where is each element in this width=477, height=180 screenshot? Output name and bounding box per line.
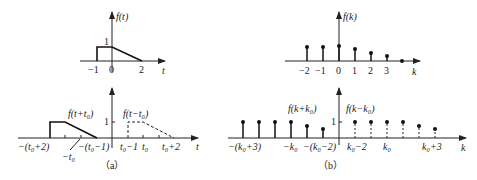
tick-label: −t₀ — [62, 151, 76, 162]
f-t-waveform — [97, 47, 142, 61]
right-stems — [353, 120, 437, 138]
tick-label: −k₀ — [283, 141, 298, 152]
plot-f-k-shifted: f(k+k₀) f(k−k₀) 1 −(k₀+3) −k₀ −(k₀−2) k₀… — [228, 88, 466, 171]
left-stems — [241, 120, 325, 138]
tick-label: −(t₀+2) — [18, 141, 50, 153]
signal-shift-diagram: f(t) 1 −1 0 2 t f(t+t₀) f(t−t₀) 1 −(t₀+2… — [0, 0, 477, 180]
plot-f-t: f(t) 1 −1 0 2 t — [80, 11, 165, 76]
level-label: 1 — [104, 116, 109, 127]
tick-label: 2 — [368, 65, 373, 76]
tick-label: k₀−2 — [347, 141, 367, 152]
f-t-plus-t0-waveform — [50, 122, 97, 138]
left-curve-label: f(t+t₀) — [68, 108, 94, 120]
tick-label: 2 — [139, 64, 144, 75]
level-label: 1 — [331, 116, 336, 127]
tick-label: −2 — [299, 65, 310, 76]
stems — [305, 44, 404, 63]
tick-label: t₀−1 — [120, 141, 138, 152]
left-seq-label: f(k+k₀) — [288, 103, 317, 115]
tick-label: −1 — [315, 65, 326, 76]
right-seq-label: f(k−k₀) — [346, 103, 375, 115]
tick-label: 1 — [352, 65, 357, 76]
tick-label: 3 — [384, 65, 389, 76]
tick-label: −1 — [88, 64, 99, 75]
xlabel: t — [196, 141, 199, 152]
f-t-minus-t0-waveform — [128, 122, 174, 138]
xlabel: k — [412, 66, 417, 77]
tick-label: 0 — [336, 65, 341, 76]
caption-b: （b） — [318, 160, 343, 171]
plot-f-k: f(k) −2 −1 0 1 2 3 k — [285, 11, 420, 77]
tick-label: k₀+3 — [422, 141, 442, 152]
right-curve-label: f(t−t₀) — [123, 108, 149, 120]
tick-label: −(t₀−1) — [78, 141, 110, 153]
tick-label: t₀+2 — [162, 141, 180, 152]
level-label: 1 — [104, 36, 109, 47]
plot-f-t-shifted: f(t+t₀) f(t−t₀) 1 −(t₀+2) −t₀ −(t₀−1) t₀… — [18, 88, 199, 171]
tick-label: −(k₀+3) — [228, 141, 262, 153]
tick-label: t₀ — [142, 141, 149, 152]
tick-label: k₀ — [383, 141, 391, 152]
tick-label: −(k₀−2) — [303, 141, 337, 153]
caption-a: （a） — [100, 160, 124, 171]
ylabel: f(k) — [343, 11, 358, 23]
xlabel: k — [461, 142, 466, 153]
ylabel: f(t) — [116, 11, 129, 23]
tick-label: 0 — [109, 64, 114, 75]
xlabel: t — [162, 65, 165, 76]
